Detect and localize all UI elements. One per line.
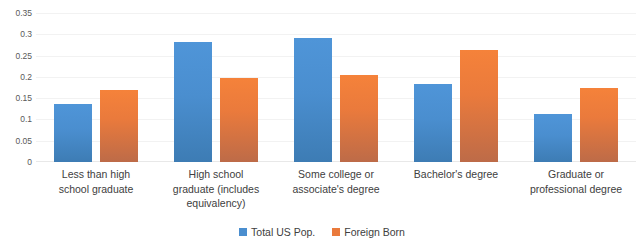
bar-group [276,13,396,162]
x-axis-label: High schoolgraduate (includesequivalency… [156,167,276,211]
x-axis-label-line: Some college or [276,167,396,182]
legend-swatch-blue [239,228,247,236]
x-axis-label: Less than highschool graduate [36,167,156,196]
bar-group [156,13,276,162]
bar-total-us-pop[interactable] [294,38,332,162]
x-axis-category-labels: Less than highschool graduateHigh school… [36,167,636,213]
x-axis-label: Graduate orprofessional degree [516,167,636,196]
chart-legend: Total US Pop.Foreign Born [0,226,644,238]
x-axis-label: Some college orassociate's degree [276,167,396,196]
bar-foreign-born[interactable] [100,90,138,162]
bar-foreign-born[interactable] [220,78,258,162]
y-axis-tick-label: 0.35 [0,8,32,18]
x-axis-label-line: graduate (includes [156,182,276,197]
bar-total-us-pop[interactable] [414,84,452,162]
legend-item[interactable]: Foreign Born [332,226,405,238]
x-axis-label-line: High school [156,167,276,182]
x-axis-label-line: associate's degree [276,182,396,197]
y-axis-tick-label: 0.3 [0,29,32,39]
y-axis-tick-label: 0.1 [0,114,32,124]
y-axis-tick-label: 0 [0,157,32,167]
y-axis-tick-label: 0.2 [0,72,32,82]
legend-label: Foreign Born [344,226,405,238]
bar-group [516,13,636,162]
x-axis-label-line: Bachelor's degree [396,167,516,182]
bar-total-us-pop[interactable] [534,114,572,162]
plot-area [36,13,636,162]
bar-foreign-born[interactable] [580,88,618,162]
x-axis-label-line: Less than high [36,167,156,182]
x-axis-label-line: Graduate or [516,167,636,182]
y-axis-tick-label: 0.25 [0,51,32,61]
legend-item[interactable]: Total US Pop. [239,226,315,238]
x-axis-label-line: equivalency) [156,196,276,211]
bar-chart: 0.350.30.250.20.150.10.050 Less than hig… [0,0,644,247]
bar-total-us-pop[interactable] [174,42,212,162]
y-axis-tick-label: 0.15 [0,93,32,103]
y-axis: 0.350.30.250.20.150.10.050 [0,13,32,162]
x-axis-label: Bachelor's degree [396,167,516,182]
x-axis-label-line: school graduate [36,182,156,197]
bar-total-us-pop[interactable] [54,104,92,162]
bar-foreign-born[interactable] [340,75,378,162]
bar-group [396,13,516,162]
legend-swatch-orange [332,228,340,236]
bar-foreign-born[interactable] [460,50,498,162]
y-axis-tick-label: 0.05 [0,136,32,146]
legend-label: Total US Pop. [251,226,315,238]
bar-group [36,13,156,162]
x-axis-label-line: professional degree [516,182,636,197]
